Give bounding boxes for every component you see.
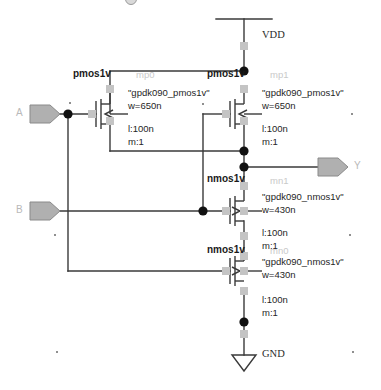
device-type-mp1: pmos1v <box>207 69 245 79</box>
device-l-mp1: l:100n <box>262 124 288 134</box>
device-instance-mn0: mn0 <box>270 246 288 256</box>
pin-symbol-a[interactable] <box>30 105 60 123</box>
gnd-symbol-icon <box>232 355 256 371</box>
device-type-mp0: pmos1v <box>73 69 111 79</box>
device-w-mp0: w=650n <box>128 101 162 111</box>
junction-a <box>63 109 72 118</box>
pad-mp1-gate <box>222 110 230 118</box>
top-artifact-icon <box>126 0 137 5</box>
pad-mn0-gate <box>222 267 230 275</box>
device-type-mn1: nmos1v <box>207 174 245 184</box>
pad-mn1-source <box>240 232 248 240</box>
junction-b <box>198 206 207 215</box>
gnd-label: GND <box>262 349 285 360</box>
device-m-mp0: m:1 <box>128 137 144 147</box>
device-instance-mp1: mp1 <box>270 70 288 80</box>
pin-label-y: Y <box>354 161 361 171</box>
pad-mp0-source <box>106 85 114 93</box>
vdd-label: VDD <box>262 30 285 41</box>
device-type-mn0: nmos1v <box>207 245 245 255</box>
pad-mn0-bulk <box>240 267 248 275</box>
junction-mp-drains <box>239 146 248 155</box>
pad-vdd <box>240 42 248 50</box>
junction-gnd <box>239 317 248 326</box>
pad-mp1-source <box>240 85 248 93</box>
device-model-mp1: "gpdk090_pmos1v" <box>262 88 344 98</box>
device-model-mn0: "gpdk090_nmos1v" <box>262 257 344 267</box>
pad-mn1-bulk <box>240 207 248 215</box>
device-l-mp0: l:100n <box>128 124 154 134</box>
pad-mp1-drain <box>240 117 248 125</box>
device-m-mn0: m:1 <box>262 308 278 318</box>
device-l-mn0: l:100n <box>262 295 288 305</box>
device-instance-mp0: mp0 <box>136 70 154 80</box>
device-instance-mn1: mn1 <box>270 176 288 186</box>
pin-symbol-y[interactable] <box>318 158 348 176</box>
device-w-mn1: w=430n <box>262 205 296 215</box>
device-model-mp0: "gpdk090_pmos1v" <box>128 88 210 98</box>
pad-gnd <box>240 330 248 338</box>
stray-dot-layer <box>54 102 354 353</box>
device-w-mp1: w=650n <box>262 101 296 111</box>
pin-label-b: B <box>16 205 23 215</box>
pad-mn0-source <box>240 287 248 295</box>
pad-mp0-gate <box>88 110 96 118</box>
pin-symbol-b[interactable] <box>30 202 60 220</box>
device-model-mn1: "gpdk090_nmos1v" <box>262 192 344 202</box>
pad-mp0-drain <box>106 117 114 125</box>
junction-output <box>239 162 248 171</box>
pad-mn1-gate <box>222 207 230 215</box>
device-l-mn1: l:100n <box>262 228 288 238</box>
device-m-mp1: m:1 <box>262 137 278 147</box>
pin-label-a: A <box>16 108 23 118</box>
device-w-mn0: w=430n <box>262 270 296 280</box>
